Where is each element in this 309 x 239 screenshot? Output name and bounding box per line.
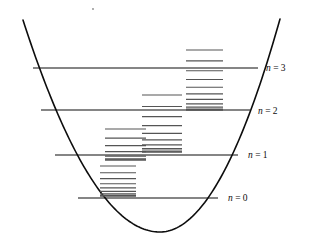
quantum-number-value: = 2 [263, 106, 278, 116]
level-label-n2: n = 2 [258, 106, 278, 116]
diagram-canvas: n = 0n = 1n = 2n = 3 [0, 0, 309, 239]
level-label-n1: n = 1 [248, 150, 268, 160]
level-label-n3: n = 3 [266, 63, 286, 73]
quantum-number-value: = 0 [233, 193, 248, 203]
quantum-number-value: = 1 [253, 150, 268, 160]
scan-speck [92, 8, 94, 10]
level-label-n0: n = 0 [228, 193, 248, 203]
quantum-number-value: = 3 [271, 63, 286, 73]
energy-level-diagram: n = 0n = 1n = 2n = 3 [0, 0, 309, 239]
diagram-background [0, 0, 309, 239]
